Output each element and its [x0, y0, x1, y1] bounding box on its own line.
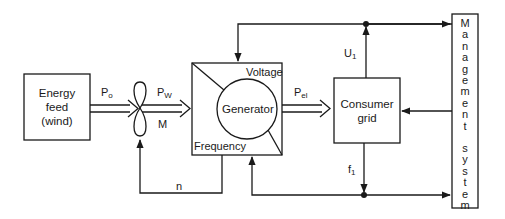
speed-n-label: n: [176, 180, 182, 193]
frequency-label: Frequency: [194, 140, 246, 153]
u1-label: U1: [344, 47, 356, 63]
letter: t: [452, 121, 478, 132]
pw-power-arrow: [142, 100, 190, 117]
p0-label: Po: [101, 86, 113, 102]
voltage-label: Voltage: [246, 66, 283, 79]
generator-label: Generator: [222, 103, 274, 116]
p0-power-arrow: [90, 100, 138, 117]
energy-feed-label: Energy feed (wind): [24, 86, 90, 128]
letter: n: [452, 109, 478, 120]
energy-feed-line3: (wind): [24, 114, 90, 128]
pw-label: PW: [157, 86, 172, 102]
wind-rotor-icon: [134, 82, 146, 136]
consumer-grid-line2: grid: [334, 111, 400, 125]
energy-feed-line2: feed: [24, 100, 90, 114]
u1-junction-dot: [363, 21, 369, 27]
f1-label: f1: [348, 163, 356, 179]
management-system-label: M a n a g e m e n t s y s t e m: [452, 18, 478, 212]
consumer-grid-label: Consumer grid: [334, 97, 400, 125]
letter: a: [452, 52, 478, 63]
f1-junction-dot: [361, 192, 367, 198]
energy-feed-line1: Energy: [24, 86, 90, 100]
torque-label: M: [158, 118, 167, 131]
pel-power-arrow: [282, 100, 330, 117]
letter: t: [452, 177, 478, 188]
consumer-grid-line1: Consumer: [334, 97, 400, 111]
pel-label: Pel: [294, 86, 308, 102]
letter: m: [452, 200, 478, 211]
